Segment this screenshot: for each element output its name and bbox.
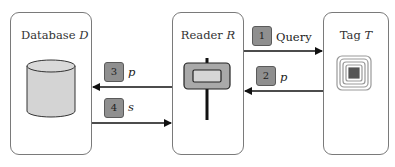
rfid-tag-icon <box>337 56 371 90</box>
diagram-graphics <box>0 0 395 167</box>
step-badge-4: 4 <box>104 98 124 118</box>
database-cylinder-icon <box>27 60 75 117</box>
rfid-reader-icon <box>184 58 230 120</box>
message-label-s: s <box>128 100 134 114</box>
message-label-p-3: p <box>128 65 135 79</box>
message-label-p-2: p <box>280 70 287 84</box>
step-badge-2: 2 <box>256 66 276 86</box>
step-badge-1: 1 <box>252 26 272 46</box>
step-badge-3: 3 <box>104 62 124 82</box>
message-label-query: Query <box>276 30 312 44</box>
